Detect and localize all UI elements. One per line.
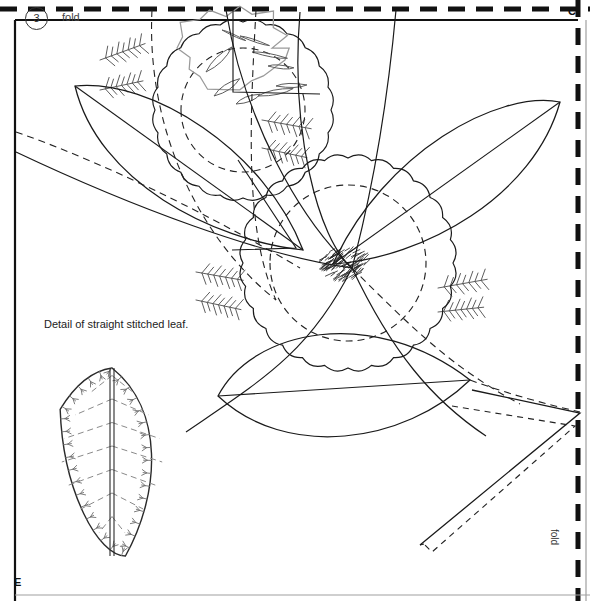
- sprig-barb: [214, 266, 222, 275]
- sprig-barb: [207, 302, 210, 311]
- sprig-barb: [220, 276, 223, 284]
- sprig-barb: [138, 82, 146, 91]
- sprig-barb: [214, 275, 218, 286]
- sprig-barb: [202, 264, 210, 273]
- sprig-barb: [123, 43, 125, 52]
- leaf-upper-right-vein: [333, 102, 560, 264]
- sprig-barb: [287, 117, 293, 124]
- sprig-barb: [281, 123, 285, 134]
- sprig-barb: [279, 143, 287, 152]
- sprig-barb: [213, 304, 217, 315]
- edge-stitch-barb: [68, 444, 73, 446]
- sprig-barb: [117, 54, 126, 62]
- hatch-stroke: [325, 252, 330, 258]
- sprig-barb: [296, 149, 302, 156]
- sprig-barb: [127, 73, 131, 84]
- corner-label-e: E: [14, 576, 21, 588]
- sprig-barb: [481, 280, 489, 289]
- teardrop-petal: [276, 83, 307, 87]
- sprig-barb: [116, 75, 120, 87]
- teardrop-petal: [214, 79, 240, 96]
- detail-leaf-vein: [75, 399, 112, 415]
- sprig-barb: [224, 297, 232, 306]
- sprig-barb: [128, 50, 137, 58]
- edge-stitch-barb: [142, 473, 147, 475]
- edge-stitch-barb: [100, 376, 101, 381]
- detail-leaf-vein: [112, 493, 143, 509]
- stem-sweep-left-solid: [16, 152, 352, 268]
- sprig-barb: [232, 271, 238, 278]
- detail-leaf-vein: [112, 423, 160, 439]
- sprig-barb: [111, 56, 118, 62]
- sprig-barb: [478, 308, 485, 318]
- sprig-barb: [455, 299, 460, 310]
- edge-stitch-barb: [65, 419, 70, 422]
- sprig-barb: [213, 295, 221, 304]
- sprig-barb: [128, 38, 130, 50]
- detail-leaf-outline: [60, 368, 151, 556]
- sprig-barb: [293, 125, 297, 136]
- sprig-barb: [444, 311, 451, 321]
- detail-leaf-vein: [68, 470, 112, 486]
- sprig-barb: [138, 71, 142, 82]
- sprig-barb: [287, 124, 290, 133]
- detail-leaf-vein: [64, 423, 112, 439]
- sprig-barb: [202, 301, 206, 312]
- sprig-barb: [202, 273, 206, 284]
- sprig-barb: [230, 307, 233, 316]
- sheet-frame: [0, 0, 590, 601]
- sprig-barb: [111, 47, 113, 56]
- sprig-barb: [134, 48, 141, 54]
- sprig-barb: [290, 145, 298, 154]
- edge-stitch-barb: [80, 494, 85, 495]
- sprig-barb: [449, 311, 454, 318]
- stem-long-lower-solid: [352, 268, 486, 436]
- sprig-barb: [122, 77, 125, 86]
- sprig-barb: [467, 298, 472, 309]
- sprig-barb: [208, 267, 214, 274]
- edge-stitch-barb: [90, 517, 96, 518]
- sprig-barb: [226, 268, 234, 277]
- edge-stitch-barb: [66, 431, 71, 433]
- edge-stitch-barb: [104, 537, 110, 538]
- sprig-barb: [296, 155, 299, 164]
- sprig-barb: [274, 122, 277, 130]
- flower-top: [153, 6, 334, 200]
- edge-stitch-barb: [73, 469, 78, 471]
- construction-dashed-5: [470, 380, 580, 412]
- sprig-barb: [475, 282, 481, 289]
- scalloped-petal-outline-top: [153, 20, 334, 201]
- sprig-barb: [106, 46, 108, 58]
- edge-stitch-barb: [130, 523, 135, 524]
- construction-dashed-4: [352, 268, 520, 404]
- teardrop-petal: [206, 47, 232, 72]
- sprig-barb: [467, 309, 474, 319]
- detail-leaf-vein: [112, 446, 162, 462]
- sprig-barb: [117, 42, 119, 54]
- edge-stitch-barb: [133, 410, 138, 411]
- sprig-barb: [444, 276, 448, 287]
- edge-stitch-barb: [142, 445, 147, 448]
- leaf-upper-left-vein: [75, 86, 303, 250]
- folded-band-strip: [420, 390, 580, 552]
- sprig-barb: [220, 269, 226, 276]
- sprig-barb: [123, 52, 130, 58]
- edge-stitch-barb: [122, 546, 123, 551]
- edge-stitch-barb: [134, 510, 139, 511]
- sprig-barb: [472, 300, 476, 308]
- sprig-barb: [461, 310, 466, 317]
- edge-stitch-barb: [126, 534, 131, 535]
- sprig-barb: [268, 121, 272, 132]
- sprig-barb: [455, 310, 462, 320]
- sprig-barb: [134, 39, 136, 48]
- detail-leaf-vein: [62, 446, 112, 462]
- sprig-barb: [274, 115, 280, 122]
- sprig-barb: [207, 296, 213, 303]
- sprig-barb: [461, 301, 465, 309]
- sprig-barb: [281, 114, 289, 123]
- step-number-badge: 3: [25, 7, 48, 30]
- sprig-barb: [305, 118, 313, 127]
- leaf-lower-outline: [218, 334, 470, 437]
- sprig-barb: [475, 273, 478, 282]
- detail-leaf-vein: [112, 470, 156, 486]
